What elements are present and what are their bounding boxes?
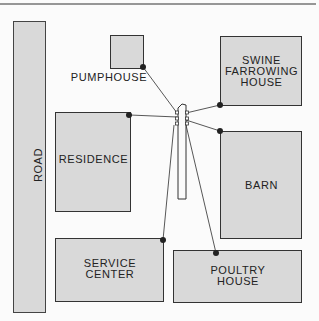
label-line: CENTER (56, 269, 164, 280)
swine-connection-dot (217, 102, 223, 108)
pumphouse-building (111, 36, 144, 69)
poultry-house-label: POULTRY HOUSE (174, 265, 302, 287)
service-center-connection-dot (160, 237, 166, 243)
insulator-icon (176, 111, 179, 114)
residence-connection-dot (126, 112, 132, 118)
label-line: HOUSE (174, 276, 302, 287)
residence-label: RESIDENCE (56, 154, 131, 165)
insulator-icon (186, 117, 189, 120)
utility-pole (176, 104, 189, 199)
insulator-icon (186, 111, 189, 114)
pumphouse-label: PUMPHOUSE (64, 72, 154, 83)
connection-points (126, 64, 223, 256)
insulator-icon (176, 122, 179, 125)
poultry-connection-dot (213, 250, 219, 256)
barn-label: BARN (221, 180, 302, 191)
barn-connection-dot (217, 128, 223, 134)
insulator-icon (186, 122, 189, 125)
insulator-icon (176, 117, 179, 120)
swine-farrowing-house-label: SWINE FARROWING HOUSE (221, 55, 302, 88)
pumphouse-connection-dot (140, 64, 146, 70)
road-label: ROAD (33, 130, 44, 200)
label-line: HOUSE (221, 77, 302, 88)
service-center-label: SERVICE CENTER (56, 258, 164, 280)
service-wires (130, 67, 220, 253)
